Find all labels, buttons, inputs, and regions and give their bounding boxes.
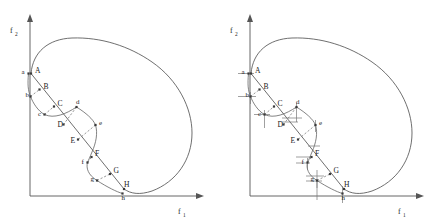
label-e: e [319, 119, 322, 127]
label-G: G [334, 166, 340, 175]
dash-b-B [31, 90, 40, 97]
label-F: F [95, 149, 99, 158]
point-a [247, 72, 249, 74]
dash-g-G [317, 174, 330, 181]
label-A: A [35, 66, 41, 75]
connector-dashes-left [31, 90, 111, 181]
dash-g-G [97, 174, 110, 181]
x-axis-label-left: f 1 [178, 207, 186, 218]
label-H: H [344, 180, 350, 189]
point-c [43, 113, 45, 115]
feasible-region-boundary [31, 38, 192, 194]
svg-text:2: 2 [235, 31, 238, 37]
panel-right: ABCDEFGH abcdefgh f 2 f 1 [220, 0, 439, 224]
label-c: c [38, 110, 41, 118]
point-F [90, 156, 92, 158]
y-axis-label-right: f 2 [230, 26, 238, 37]
point-F [310, 156, 312, 158]
point-g [316, 179, 318, 181]
point-C [273, 105, 275, 107]
label-b: b [26, 91, 30, 99]
point-a [27, 72, 29, 74]
label-D: D [58, 120, 64, 129]
figure-container: ABCDEFGH abcdefgh f 2 f 1 [0, 0, 439, 224]
feasible-region-boundary [251, 38, 412, 194]
x-axis-arrow [416, 193, 424, 199]
lower-points-left [27, 72, 123, 194]
lower-scallop-curve [28, 74, 122, 194]
y-axis-label-left: f 2 [10, 26, 18, 37]
point-d [75, 106, 77, 108]
svg-text:1: 1 [403, 212, 406, 218]
point-f [86, 161, 88, 163]
y-axis-arrow [27, 14, 33, 22]
svg-text:f: f [398, 207, 401, 216]
point-G [109, 173, 111, 175]
lower-scallop-curve [248, 74, 342, 194]
label-a: a [22, 68, 26, 76]
label-E: E [71, 136, 76, 145]
x-axis-arrow [196, 193, 204, 199]
upper-chain-line [251, 74, 344, 190]
point-A [250, 72, 252, 74]
label-G: G [114, 166, 120, 175]
label-C: C [278, 99, 283, 108]
point-g [96, 179, 98, 181]
svg-text:f: f [230, 26, 233, 35]
panel-right-svg: ABCDEFGH abcdefgh f 2 f 1 [220, 0, 439, 224]
svg-text:2: 2 [15, 31, 18, 37]
label-g: g [91, 175, 95, 183]
label-e: e [99, 119, 102, 127]
label-d: d [76, 98, 80, 106]
label-A: A [255, 66, 261, 75]
upper-labels-right: ABCDEFGH [255, 66, 350, 189]
svg-text:1: 1 [183, 212, 186, 218]
label-g: g [311, 175, 315, 183]
label-F: F [315, 149, 319, 158]
dash-e-E [298, 125, 316, 140]
dash-e-E [78, 125, 96, 140]
point-e [94, 124, 96, 126]
lower-labels-right: abcdefgh [242, 68, 346, 202]
label-f: f [82, 158, 85, 166]
label-f: f [302, 158, 305, 166]
point-f [306, 161, 308, 163]
lower-labels-left: abcdefgh [22, 68, 126, 202]
svg-text:f: f [10, 26, 13, 35]
point-B [38, 88, 40, 90]
label-H: H [124, 180, 130, 189]
point-e [314, 124, 316, 126]
label-E: E [291, 136, 296, 145]
connector-dashes-right [251, 90, 331, 181]
upper-chain-line [31, 74, 124, 190]
point-B [258, 88, 260, 90]
label-h: h [122, 194, 126, 202]
upper-labels-left: ABCDEFGH [35, 66, 130, 189]
dash-b-B [251, 90, 260, 97]
panel-left-svg: ABCDEFGH abcdefgh f 2 f 1 [0, 0, 219, 224]
dash-c-C [45, 107, 55, 115]
point-d [295, 106, 297, 108]
y-axis-arrow [247, 14, 253, 22]
point-E [297, 138, 299, 140]
point-G [329, 173, 331, 175]
label-C: C [58, 99, 63, 108]
label-d: d [296, 98, 300, 106]
lower-points-right [247, 72, 343, 194]
x-axis-label-right: f 1 [398, 207, 406, 218]
point-C [53, 105, 55, 107]
label-b: b [246, 91, 250, 99]
label-B: B [264, 82, 269, 91]
dash-c-C [265, 107, 275, 115]
label-a: a [242, 68, 246, 76]
label-h: h [342, 194, 346, 202]
label-c: c [258, 110, 261, 118]
point-A [30, 72, 32, 74]
svg-text:f: f [178, 207, 181, 216]
label-B: B [44, 82, 49, 91]
point-b [29, 95, 31, 97]
panel-left: ABCDEFGH abcdefgh f 2 f 1 [0, 0, 219, 224]
point-c [263, 113, 265, 115]
point-E [77, 138, 79, 140]
point-b [249, 95, 251, 97]
